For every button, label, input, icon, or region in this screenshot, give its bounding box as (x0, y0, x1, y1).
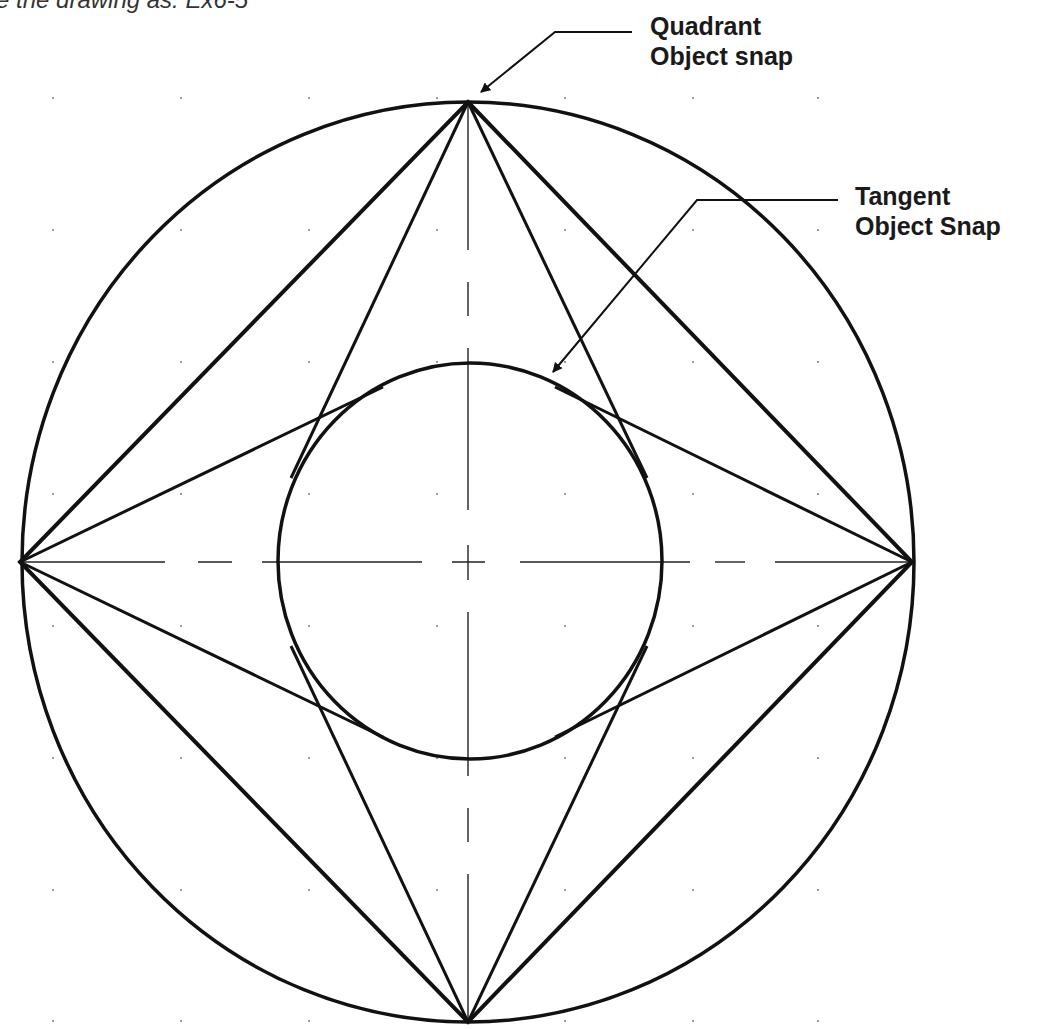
grid-dot (436, 97, 438, 99)
grid-dot (817, 889, 819, 891)
quadrant-leader-arrow (481, 32, 632, 92)
grid-dot (180, 1020, 182, 1022)
grid-dot (692, 361, 694, 363)
grid-dot (436, 229, 438, 231)
grid-dot (692, 493, 694, 495)
grid-dot (180, 229, 182, 231)
grid-dot (692, 1020, 694, 1022)
grid-dot (692, 625, 694, 627)
grid-dot (564, 625, 566, 627)
grid-dot (564, 493, 566, 495)
grid-dot (564, 889, 566, 891)
grid-dot (308, 625, 310, 627)
grid-dot (52, 757, 54, 759)
grid-dot (436, 625, 438, 627)
grid-dot (52, 97, 54, 99)
grid-dot (308, 757, 310, 759)
grid-dot (180, 757, 182, 759)
grid-dot (52, 229, 54, 231)
grid-dot (436, 361, 438, 363)
grid-dot (52, 493, 54, 495)
snap-grid-dots (52, 97, 819, 1022)
grid-dot (52, 361, 54, 363)
grid-dot (692, 757, 694, 759)
grid-dot (308, 361, 310, 363)
cad-drawing (0, 0, 1048, 1029)
grid-dot (564, 97, 566, 99)
grid-dot (180, 493, 182, 495)
grid-dot (308, 889, 310, 891)
grid-dot (564, 229, 566, 231)
grid-dot (692, 229, 694, 231)
grid-dot (692, 889, 694, 891)
grid-dot (436, 889, 438, 891)
grid-dot (817, 361, 819, 363)
grid-dot (308, 229, 310, 231)
grid-dot (52, 1020, 54, 1022)
grid-dot (817, 493, 819, 495)
grid-dot (52, 889, 54, 891)
grid-dot (817, 625, 819, 627)
grid-dot (817, 757, 819, 759)
inner-circle (278, 363, 662, 759)
grid-dot (180, 625, 182, 627)
grid-dot (564, 757, 566, 759)
grid-dot (52, 625, 54, 627)
grid-dot (436, 493, 438, 495)
grid-dot (817, 229, 819, 231)
grid-dot (180, 889, 182, 891)
grid-dot (564, 1020, 566, 1022)
grid-dot (308, 1020, 310, 1022)
grid-dot (308, 493, 310, 495)
tangent-leader-arrow (553, 200, 838, 372)
grid-dot (180, 361, 182, 363)
grid-dot (308, 97, 310, 99)
grid-dot (564, 361, 566, 363)
grid-dot (692, 97, 694, 99)
grid-dot (180, 97, 182, 99)
grid-dot (817, 97, 819, 99)
grid-dot (817, 1020, 819, 1022)
